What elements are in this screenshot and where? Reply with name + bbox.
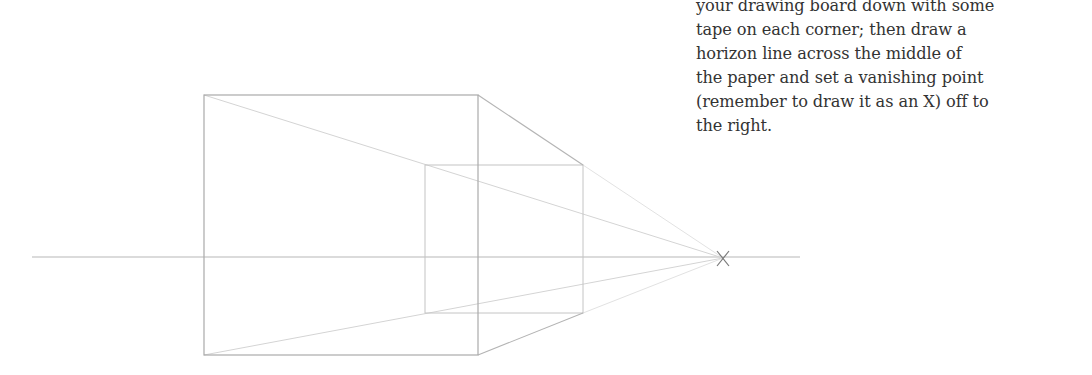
instruction-line: the paper and set a vanishing point bbox=[696, 66, 1076, 90]
instruction-line: your drawing board down with some bbox=[696, 0, 1076, 18]
front-face bbox=[204, 95, 478, 355]
back-face bbox=[425, 165, 583, 313]
instruction-line: tape on each corner; then draw a bbox=[696, 18, 1076, 42]
instruction-line: horizon line across the middle of bbox=[696, 42, 1076, 66]
instruction-line: the right. bbox=[696, 114, 1076, 138]
instruction-text: your drawing board down with some tape o… bbox=[696, 0, 1076, 138]
instruction-line: (remember to draw it as an X) off to bbox=[696, 90, 1076, 114]
orthogonal-lines bbox=[204, 95, 723, 355]
depth-edges bbox=[478, 95, 583, 355]
